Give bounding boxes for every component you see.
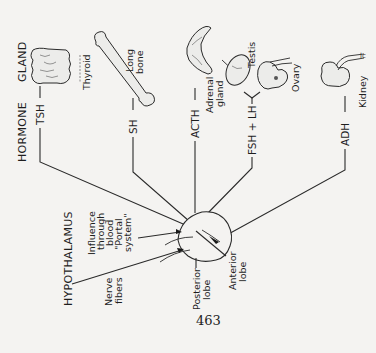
ovary-icon: [258, 58, 292, 89]
hormone-header: HORMONE: [16, 102, 29, 162]
ovary-label: Ovary: [290, 63, 301, 92]
long-bone-label-line2: bone: [134, 50, 145, 74]
pituitary-hormone-diagram: HORMONE GLAND TSH Thyroid Long bone SH A…: [0, 0, 376, 353]
gland-header: GLAND: [16, 41, 29, 82]
acth-label: ACTH: [189, 109, 201, 138]
adh-label: ADH: [339, 123, 351, 146]
sh-label: SH: [127, 119, 139, 134]
kidney-label: Kidney: [357, 75, 368, 108]
influence-label-line5: system": [122, 213, 133, 252]
hypothalamus-label: HYPOTHALAMUS: [62, 211, 75, 306]
pituitary-gland-icon: [160, 212, 232, 262]
thyroid-icon: [31, 48, 80, 83]
sh-pathway-line: [133, 137, 197, 228]
fsh-lh-pathway-line: [205, 157, 252, 216]
portal-system-arrow: [138, 232, 180, 238]
nerve-fibers-label-line2: fibers: [113, 277, 124, 304]
fsh-lh-y-branch: [244, 92, 260, 98]
posterior-lobe-label-line2: lobe: [201, 280, 212, 300]
svg-text:lc: lc: [360, 52, 366, 60]
testis-label: Testis: [246, 42, 257, 69]
page-number: 463: [196, 313, 221, 328]
anterior-lobe-label-line2: lobe: [237, 262, 248, 282]
adrenal-gland-label-line2: gland: [214, 80, 225, 107]
tsh-label: TSH: [34, 104, 46, 126]
adrenal-gland-icon: [187, 26, 212, 74]
thyroid-label: Thyroid: [81, 54, 92, 91]
fsh-lh-label: FSH + LH: [246, 105, 258, 155]
adh-pathway-line: [214, 149, 345, 242]
